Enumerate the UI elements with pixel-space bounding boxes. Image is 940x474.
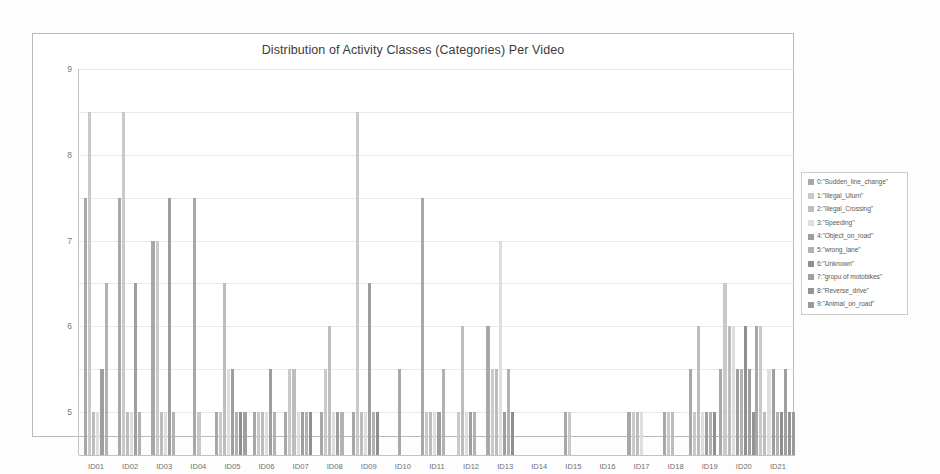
bar	[780, 412, 783, 455]
y-tick-label: 7	[46, 236, 72, 246]
bar	[105, 283, 108, 455]
bar	[632, 412, 635, 455]
bar-group	[585, 69, 619, 455]
bar	[693, 412, 696, 455]
bar-group	[214, 69, 248, 455]
legend-item[interactable]: 3:"Speeding"	[808, 220, 902, 227]
bar	[372, 412, 375, 455]
legend-swatch-icon	[808, 288, 814, 294]
bar	[755, 326, 758, 455]
bar	[784, 369, 787, 455]
bar	[215, 412, 218, 455]
x-tick-label: ID03	[147, 462, 181, 471]
bar	[257, 412, 260, 455]
bar	[239, 412, 242, 455]
legend-swatch-icon	[808, 179, 814, 185]
bar-group	[416, 69, 450, 455]
bar	[469, 412, 472, 455]
y-tick-label: 5	[46, 407, 72, 417]
legend-item-label: 8:"Reverse_drive"	[817, 288, 869, 295]
bar	[309, 412, 312, 455]
x-axis-labels: ID01ID02ID03ID04ID05ID06ID07ID08ID09ID10…	[79, 462, 795, 471]
legend-item-label: 2:"Illegal_Crossing"	[817, 206, 873, 213]
chart-page: Distribution of Activity Classes (Catego…	[0, 0, 940, 474]
legend-item[interactable]: 2:"Illegal_Crossing"	[808, 206, 902, 213]
bar	[442, 369, 445, 455]
x-tick-label: ID02	[113, 462, 147, 471]
bar	[491, 369, 494, 455]
x-tick-label: ID01	[79, 462, 113, 471]
bar-group	[450, 69, 484, 455]
plot-inner: 0123456789	[79, 69, 795, 455]
y-tick-label: 9	[46, 64, 72, 74]
bar-group	[719, 69, 755, 455]
bar	[92, 412, 95, 455]
bar-group	[180, 69, 214, 455]
bar	[324, 369, 327, 455]
bar	[486, 326, 489, 455]
bar	[636, 412, 639, 455]
bar	[265, 412, 268, 455]
x-tick-label: ID18	[659, 462, 693, 471]
x-tick-label: ID17	[625, 462, 659, 471]
bar	[253, 412, 256, 455]
legend-item[interactable]: 6:"Unknown"	[808, 261, 902, 268]
bar	[671, 412, 674, 455]
bar	[495, 369, 498, 455]
legend-item[interactable]: 0:"Sudden_line_change"	[808, 179, 902, 186]
bar	[511, 412, 514, 455]
bar	[429, 412, 432, 455]
bar	[705, 412, 708, 455]
bar	[465, 412, 468, 455]
bar	[667, 412, 670, 455]
legend-swatch-icon	[808, 261, 814, 267]
legend-item-label: 3:"Speeding"	[817, 220, 854, 227]
bar	[736, 369, 739, 455]
y-tick-label: 8	[46, 150, 72, 160]
legend-item[interactable]: 8:"Reverse_drive"	[808, 288, 902, 295]
bar	[235, 412, 238, 455]
bar	[88, 112, 91, 455]
x-tick-label: ID08	[318, 462, 352, 471]
bar	[320, 412, 323, 455]
bar	[227, 369, 230, 455]
bar	[473, 412, 476, 455]
bar	[719, 369, 722, 455]
legend-item[interactable]: 4:"Object_on_road"	[808, 233, 902, 240]
x-tick-label: ID07	[284, 462, 318, 471]
bar	[84, 198, 87, 455]
legend-item[interactable]: 1:"Illegal_Uturn"	[808, 193, 902, 200]
bar	[701, 412, 704, 455]
legend-item[interactable]: 9:"Animal_on_road"	[808, 301, 902, 308]
bar	[433, 412, 436, 455]
bar	[503, 412, 506, 455]
legend-item-label: 4:"Object_on_road"	[817, 233, 873, 240]
bar-groups	[79, 69, 795, 455]
bar-group	[382, 69, 416, 455]
bar	[776, 412, 779, 455]
legend-item[interactable]: 5:"wrong_lane"	[808, 247, 902, 254]
bar-group	[686, 69, 720, 455]
x-tick-label: ID21	[761, 462, 795, 471]
legend-swatch-icon	[808, 206, 814, 212]
bar	[305, 412, 308, 455]
x-tick-label: ID14	[522, 462, 556, 471]
bar	[744, 326, 747, 455]
bar-group	[349, 69, 383, 455]
bar	[301, 412, 304, 455]
bar	[728, 326, 731, 455]
bar	[788, 412, 791, 455]
bar-group	[551, 69, 585, 455]
x-tick-label: ID04	[181, 462, 215, 471]
bar	[732, 326, 735, 455]
legend-item[interactable]: 7:"gropu of motobikes"	[808, 274, 902, 281]
bar	[297, 412, 300, 455]
bar	[193, 198, 196, 455]
x-tick-label: ID20	[727, 462, 761, 471]
bar	[219, 412, 222, 455]
bar	[126, 412, 129, 455]
bar	[168, 198, 171, 455]
bar	[223, 283, 226, 455]
bar	[332, 412, 335, 455]
bar	[197, 412, 200, 455]
